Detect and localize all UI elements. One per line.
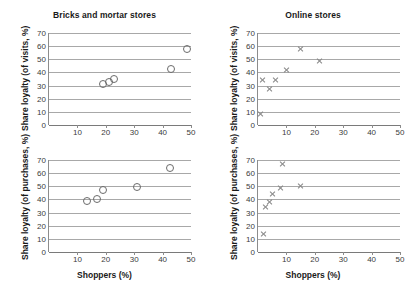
y-tick-label-70: 70 bbox=[37, 29, 46, 38]
data-point bbox=[93, 195, 101, 203]
y-tick-label-70: 70 bbox=[246, 29, 255, 38]
panel-title-bricks-visits: Bricks and mortar stores bbox=[0, 10, 209, 20]
gridline-y-0 bbox=[49, 252, 191, 253]
data-point bbox=[266, 199, 273, 206]
gridline-y-60 bbox=[49, 173, 191, 174]
y-tick-label-0: 0 bbox=[251, 248, 255, 257]
gridline-y-10 bbox=[49, 239, 191, 240]
y-tick-label-50: 50 bbox=[246, 182, 255, 191]
x-tick-label-40: 40 bbox=[367, 128, 376, 137]
y-tick-label-60: 60 bbox=[246, 42, 255, 51]
gridline-y-20 bbox=[49, 226, 191, 227]
x-tick-label-50: 50 bbox=[187, 128, 196, 137]
y-tick-label-40: 40 bbox=[37, 195, 46, 204]
x-tick-label-50: 50 bbox=[187, 255, 196, 264]
data-point bbox=[166, 164, 174, 172]
y-tick-label-10: 10 bbox=[246, 234, 255, 243]
y-tick-label-60: 60 bbox=[246, 169, 255, 178]
y-tick-label-20: 20 bbox=[37, 221, 46, 230]
x-tick-label-30: 30 bbox=[339, 128, 348, 137]
y-tick-label-0: 0 bbox=[251, 121, 255, 130]
x-tick-label-10: 10 bbox=[282, 255, 291, 264]
y-tick-label-30: 30 bbox=[246, 208, 255, 217]
data-point bbox=[257, 110, 264, 117]
x-tick-label-40: 40 bbox=[158, 128, 167, 137]
data-point bbox=[297, 183, 304, 190]
y-axis-label-purchases-right: Share loyalty (of purchases, %) bbox=[229, 134, 239, 260]
y-axis-label-purchases-left: Share loyalty (of purchases, %) bbox=[20, 134, 30, 260]
x-tick-label-40: 40 bbox=[367, 255, 376, 264]
gridline-y-0 bbox=[49, 125, 191, 126]
data-point bbox=[259, 76, 266, 83]
data-point bbox=[279, 160, 286, 167]
y-tick-label-40: 40 bbox=[246, 195, 255, 204]
gridline-y-70 bbox=[258, 33, 400, 34]
y-tick-label-70: 70 bbox=[246, 156, 255, 165]
y-tick-label-60: 60 bbox=[37, 169, 46, 178]
y-tick-label-70: 70 bbox=[37, 156, 46, 165]
y-tick-label-30: 30 bbox=[37, 81, 46, 90]
y-tick-label-20: 20 bbox=[246, 221, 255, 230]
gridline-y-20 bbox=[258, 226, 400, 227]
gridline-y-40 bbox=[258, 72, 400, 73]
gridline-y-50 bbox=[258, 59, 400, 60]
y-tick-label-20: 20 bbox=[246, 94, 255, 103]
panel-title-online-visits: Online stores bbox=[209, 10, 417, 20]
gridline-y-10 bbox=[49, 112, 191, 113]
x-tick-label-20: 20 bbox=[101, 128, 110, 137]
x-tick-label-30: 30 bbox=[130, 128, 139, 137]
data-point bbox=[110, 75, 118, 83]
gridline-y-30 bbox=[49, 213, 191, 214]
x-tick-label-10: 10 bbox=[73, 255, 82, 264]
gridline-y-70 bbox=[49, 33, 191, 34]
x-tick-label-10: 10 bbox=[282, 128, 291, 137]
data-point bbox=[183, 45, 191, 53]
y-tick-label-10: 10 bbox=[37, 234, 46, 243]
x-tick-label-30: 30 bbox=[130, 255, 139, 264]
gridline-y-60 bbox=[258, 173, 400, 174]
plot-area-online-purchases: 0102030405060701020304050 bbox=[257, 160, 400, 252]
gridline-y-0 bbox=[258, 252, 400, 253]
panel-bricks-visits: Bricks and mortar stores Share loyalty (… bbox=[0, 0, 209, 146]
data-point bbox=[283, 67, 290, 74]
y-tick-label-30: 30 bbox=[37, 208, 46, 217]
x-tick-label-10: 10 bbox=[73, 128, 82, 137]
scatter-plot-figure: Bricks and mortar stores Share loyalty (… bbox=[0, 0, 417, 291]
x-tick-label-40: 40 bbox=[158, 255, 167, 264]
gridline-y-40 bbox=[49, 199, 191, 200]
gridline-y-10 bbox=[258, 239, 400, 240]
gridline-y-30 bbox=[258, 213, 400, 214]
x-tick-label-50: 50 bbox=[396, 128, 405, 137]
y-tick-label-0: 0 bbox=[42, 121, 46, 130]
data-point bbox=[266, 85, 273, 92]
x-tick-label-30: 30 bbox=[339, 255, 348, 264]
data-point bbox=[272, 76, 279, 83]
y-tick-label-50: 50 bbox=[246, 55, 255, 64]
data-point bbox=[133, 183, 141, 191]
x-axis-label-left: Shoppers (%) bbox=[0, 270, 209, 280]
y-tick-label-10: 10 bbox=[246, 107, 255, 116]
y-axis-label-visits-right: Share loyalty (of visits, %) bbox=[229, 26, 239, 131]
panel-bricks-purchases: Share loyalty (of purchases, %) 01020304… bbox=[0, 140, 209, 291]
data-point bbox=[260, 230, 267, 237]
y-tick-label-50: 50 bbox=[37, 55, 46, 64]
y-tick-label-40: 40 bbox=[246, 68, 255, 77]
gridline-y-10 bbox=[258, 112, 400, 113]
y-tick-label-40: 40 bbox=[37, 68, 46, 77]
data-point bbox=[99, 186, 107, 194]
y-tick-label-20: 20 bbox=[37, 94, 46, 103]
x-tick-label-20: 20 bbox=[310, 255, 319, 264]
gridline-y-60 bbox=[49, 46, 191, 47]
y-tick-label-50: 50 bbox=[37, 182, 46, 191]
gridline-y-20 bbox=[49, 99, 191, 100]
gridline-y-60 bbox=[258, 46, 400, 47]
plot-area-online-visits: 0102030405060701020304050 bbox=[257, 33, 400, 125]
gridline-y-50 bbox=[49, 186, 191, 187]
panel-online-purchases: Share loyalty (of purchases, %) 01020304… bbox=[209, 140, 417, 291]
y-axis-label-visits-left: Share loyalty (of visits, %) bbox=[20, 26, 30, 131]
panel-online-visits: Online stores Share loyalty (of visits, … bbox=[209, 0, 417, 146]
data-point bbox=[316, 58, 323, 65]
x-tick-label-20: 20 bbox=[310, 128, 319, 137]
x-tick-label-50: 50 bbox=[396, 255, 405, 264]
gridline-y-40 bbox=[258, 199, 400, 200]
